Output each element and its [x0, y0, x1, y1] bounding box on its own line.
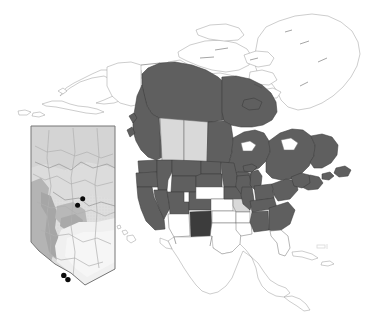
region-minnesota	[221, 162, 237, 187]
region-new-mexico	[190, 211, 212, 237]
region-utah	[167, 192, 189, 214]
region-oregon	[136, 172, 158, 187]
region-saskatchewan	[184, 120, 208, 163]
region-florida	[270, 230, 290, 256]
region-cuba-caribbean	[292, 251, 334, 266]
alberta-inset-map	[27, 122, 119, 287]
region-north-dakota	[201, 161, 221, 174]
region-labrador-newfoundland	[310, 134, 351, 177]
region-arkansas	[236, 212, 250, 223]
region-quebec	[266, 129, 315, 180]
region-idaho	[157, 160, 172, 190]
scan-artifact	[316, 243, 330, 250]
region-montana	[172, 160, 201, 176]
region-washington	[138, 160, 157, 173]
occurrence-point	[75, 203, 80, 208]
region-alberta	[160, 118, 184, 162]
region-wyoming	[171, 176, 196, 192]
region-central-america	[284, 296, 310, 311]
occurrence-point	[61, 273, 66, 278]
region-kansas	[211, 199, 233, 211]
region-arizona	[168, 214, 190, 237]
occurrence-point	[65, 277, 70, 282]
region-nebraska	[196, 187, 224, 199]
distribution-map-figure: .dk { fill:#5f5f5f; stroke:#3b3b3b; stro…	[0, 0, 369, 313]
region-mississippi-alabama	[250, 211, 269, 232]
alberta-inset	[27, 122, 119, 287]
region-manitoba	[207, 121, 233, 163]
occurrence-point	[80, 196, 85, 201]
region-georgia-carolinas	[269, 202, 295, 232]
region-south-dakota	[196, 174, 222, 187]
region-oklahoma	[212, 211, 236, 223]
